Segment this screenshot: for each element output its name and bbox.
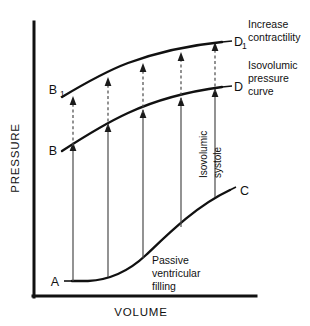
point-label-d: D	[234, 80, 243, 94]
point-label-d1-group: D 1	[234, 35, 247, 51]
isovolumic-systole-line2: systole	[212, 146, 223, 178]
point-label-b1-group: B 1	[49, 83, 65, 99]
point-label-b: B	[49, 144, 57, 158]
annotation-isovolumic-pressure-curve: Isovolumic pressure curve	[248, 59, 298, 97]
figure-canvas: VOLUME PRESSURE A B B 1 C D D 1 Increase…	[0, 0, 310, 326]
annotation-isovolumic-systole: Isovolumic systole	[198, 131, 223, 178]
isovolumic-pressure-curve-line2: pressure	[248, 72, 289, 84]
dashed-arrow-head-3	[140, 63, 147, 72]
passive-filling-line1: Passive	[152, 254, 189, 266]
isovolumic-pressure-curve-line3: curve	[248, 85, 274, 97]
annotation-passive-filling: Passive ventricular filling	[152, 254, 201, 292]
volume-axis-title: VOLUME	[114, 306, 167, 318]
passive-filling-curve	[72, 190, 230, 281]
passive-filling-line2: ventricular	[152, 267, 201, 279]
dashed-arrow-head-2	[105, 77, 112, 86]
point-label-a: A	[51, 275, 60, 289]
dashed-arrow-head-4	[178, 52, 185, 61]
increase-contractility-line1: Increase	[248, 18, 288, 30]
passive-filling-line3: filling	[152, 280, 176, 292]
point-c-leader	[230, 187, 236, 190]
pressure-volume-figure: VOLUME PRESSURE A B B 1 C D D 1 Increase…	[0, 0, 310, 326]
point-label-d1-subscript: 1	[242, 41, 247, 51]
dashed-arrow-head-1	[70, 96, 77, 105]
pressure-axis-title: PRESSURE	[9, 123, 21, 193]
point-d-leader	[222, 86, 232, 87]
point-d1-leader	[222, 41, 232, 42]
isovolumic-pressure-curve-line1: Isovolumic	[248, 59, 298, 71]
isovolumic-systole-line1: Isovolumic	[198, 131, 209, 178]
point-label-b1-subscript: 1	[60, 89, 65, 99]
point-leaders	[64, 41, 236, 281]
point-label-c: C	[240, 184, 249, 198]
point-label-b1: B	[49, 83, 57, 97]
isovolumic-systole-arrows	[70, 88, 219, 281]
annotation-increase-contractility: Increase contractility	[248, 18, 301, 43]
increase-contractility-line2: contractility	[248, 31, 301, 43]
